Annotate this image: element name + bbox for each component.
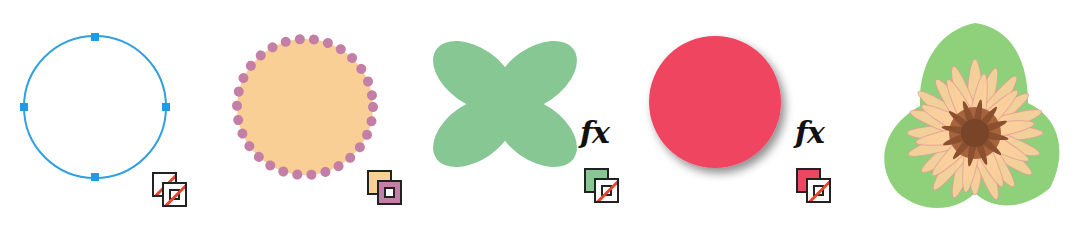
panel-clover [434,36,576,172]
stroke-none-icon [162,182,187,207]
effects-fx-icon[interactable]: fx [795,118,824,148]
dotted-circle-shape[interactable] [230,32,380,182]
effects-fx-icon[interactable]: fx [580,118,609,148]
fill-stroke-swatch-green-none[interactable] [584,168,618,202]
panel-dotted-circle [230,32,380,182]
shadowed-circle-shape[interactable] [645,30,795,180]
anchor-point-right [162,103,170,111]
flower-illustration[interactable] [870,18,1080,218]
panel-flower-artwork [870,18,1080,218]
panel-shadowed-circle [645,30,795,180]
clover-shape[interactable] [434,36,576,172]
stroke-none-icon [594,178,619,203]
stroke-none-icon [806,178,831,203]
fill-stroke-swatch-peach-mauve[interactable] [367,170,401,204]
effects-label: fx [795,115,824,150]
anchor-point-bottom [91,173,99,181]
stroke-color-icon [377,180,402,205]
anchor-point-left [20,103,28,111]
panel-path-outline [18,30,173,185]
anchor-point-top [91,33,99,41]
fill-stroke-swatch-red-none[interactable] [796,168,830,202]
effects-label: fx [580,115,609,150]
circle-path[interactable] [18,30,173,185]
fill-stroke-swatch-none-none[interactable] [152,172,186,206]
